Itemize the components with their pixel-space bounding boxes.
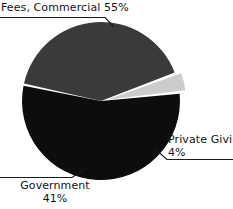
pie-chart: Fees, Commercial 55% Government 41% Priv…: [0, 0, 233, 209]
pie-chart-graphic: [0, 0, 233, 209]
pie-label-fees-commercial: Fees, Commercial 55%: [1, 2, 129, 15]
pie-label-private-giving-value: 4%: [168, 147, 233, 160]
pie-label-government: Government 41%: [13, 180, 97, 205]
pie-label-government-name: Government: [20, 179, 90, 192]
pie-label-fees-commercial-text: Fees, Commercial 55%: [1, 1, 129, 14]
pie-label-government-value: 41%: [13, 193, 97, 206]
pie-label-private-giving-name: Private Giving: [168, 133, 233, 146]
pie-label-private-giving: Private Giving 4%: [168, 134, 233, 159]
